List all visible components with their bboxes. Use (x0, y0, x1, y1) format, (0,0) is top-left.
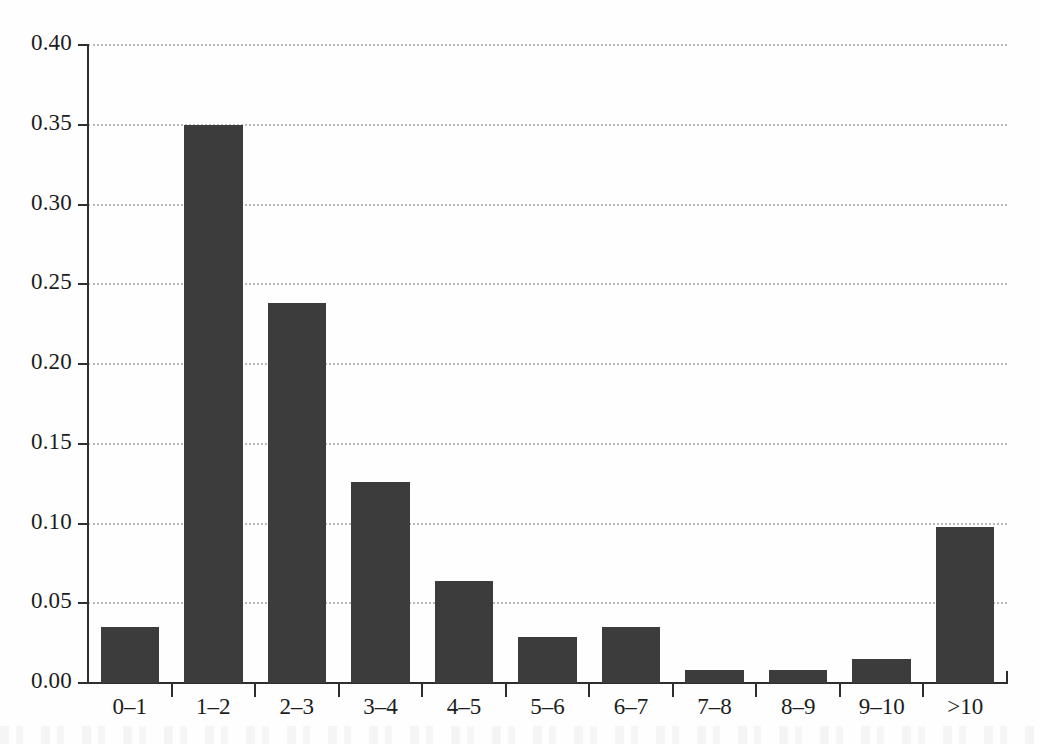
x-axis-tick-label: 2–3 (255, 694, 339, 720)
histogram-figure: 0.000.050.100.150.200.250.300.350.40 0–1… (0, 0, 1039, 744)
bar (184, 125, 242, 683)
y-axis-tick-label: 0.20 (2, 349, 72, 375)
y-axis-tick-label: 0.05 (2, 588, 72, 614)
x-axis-tick-label: 9–10 (840, 694, 924, 720)
bars (88, 45, 1007, 683)
bar (518, 637, 576, 683)
x-axis-tick-label: 0–1 (88, 694, 172, 720)
y-axis-tick-label: 0.35 (2, 110, 72, 136)
bar (351, 482, 409, 683)
x-axis-tick-label: >10 (923, 694, 1007, 720)
bar (435, 581, 493, 683)
y-axis-tick-label: 0.15 (2, 429, 72, 455)
y-axis-tick-label: 0.10 (2, 509, 72, 535)
x-axis-tick-label: 6–7 (589, 694, 673, 720)
x-axis-tick-label: 7–8 (673, 694, 757, 720)
x-axis-tick-label: 1–2 (172, 694, 256, 720)
y-axis-tick-label: 0.40 (2, 30, 72, 56)
bar (852, 659, 910, 683)
y-axis-tick-label: 0.00 (2, 668, 72, 694)
y-axis-tick-label: 0.25 (2, 269, 72, 295)
bar (936, 527, 994, 683)
x-axis-tick-label: 3–4 (339, 694, 423, 720)
scan-bleed-artifact (0, 726, 1039, 744)
y-axis-tick-label: 0.30 (2, 190, 72, 216)
x-axis-tick-label: 5–6 (506, 694, 590, 720)
bar (602, 627, 660, 683)
x-axis-tick-label: 8–9 (756, 694, 840, 720)
bar (101, 627, 159, 683)
bar (769, 670, 827, 683)
bar (685, 670, 743, 683)
x-axis-tick-label: 4–5 (422, 694, 506, 720)
bar (268, 303, 326, 683)
